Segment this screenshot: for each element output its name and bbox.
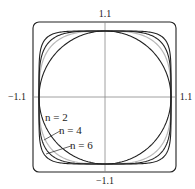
- superellipse-chart: 1.1 −1.1 −1.1 1.1 n = 2 n = 4 n = 6: [0, 0, 195, 189]
- leader-n4: [44, 131, 60, 140]
- label-n2: n = 2: [45, 111, 68, 123]
- tick-bottom: −1.1: [96, 175, 114, 186]
- tick-top: 1.1: [99, 8, 112, 19]
- tick-right: 1.1: [180, 91, 193, 102]
- label-n6: n = 6: [70, 139, 93, 151]
- label-n4: n = 4: [59, 124, 82, 136]
- tick-left: −1.1: [8, 91, 26, 102]
